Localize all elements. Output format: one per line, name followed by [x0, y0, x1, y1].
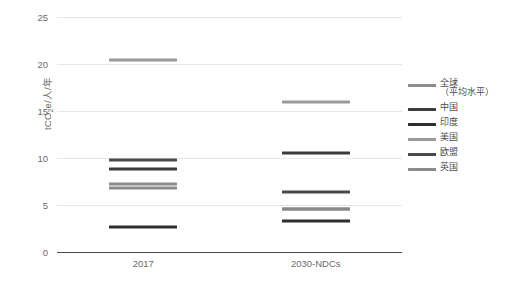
- bar-marker: [282, 152, 350, 155]
- y-tick-label-15: 15: [14, 106, 48, 117]
- legend-item[interactable]: 英国: [408, 163, 511, 172]
- legend-item-label: 欧盟: [440, 148, 458, 157]
- legend-item-label: 中国: [440, 103, 458, 112]
- bar-marker: [282, 190, 350, 193]
- y-tick-label-0: 0: [14, 247, 48, 258]
- bar-marker: [109, 168, 177, 171]
- y-axis-title-text: tCO2e/人/年: [42, 77, 53, 130]
- legend-swatch-icon: [408, 84, 436, 87]
- x-tick-label-2017: 2017: [133, 258, 154, 269]
- legend-item[interactable]: 印度: [408, 118, 511, 127]
- gridline-0: [57, 252, 402, 253]
- legend-item[interactable]: 中国: [408, 103, 511, 112]
- legend-swatch-icon: [408, 168, 436, 171]
- y-tick-label-5: 5: [14, 200, 48, 211]
- gridline-25: [57, 17, 402, 18]
- bar-marker: [109, 187, 177, 190]
- y-tick-label-20: 20: [14, 59, 48, 70]
- bar-marker: [109, 183, 177, 186]
- bar-marker: [109, 59, 177, 62]
- chart-container: tCO2e/人/年 0510152025 20172030-NDCs 全球 （平…: [0, 0, 513, 287]
- y-axis-title: tCO2e/人/年: [40, 58, 55, 148]
- gridline-20: [57, 64, 402, 65]
- bar-marker: [109, 225, 177, 228]
- legend-swatch-icon: [408, 123, 436, 126]
- legend-swatch-icon: [408, 138, 436, 141]
- legend-swatch-icon: [408, 153, 436, 156]
- legend-item-label: 英国: [440, 163, 458, 172]
- legend-item-label: 全球 （平均水平）: [440, 79, 494, 98]
- y-tick-label-25: 25: [14, 12, 48, 23]
- legend-item[interactable]: 欧盟: [408, 148, 511, 157]
- plot-area: [57, 17, 402, 252]
- chart-legend: 全球 （平均水平）中国印度美国欧盟英国: [408, 79, 511, 178]
- bar-marker: [109, 158, 177, 161]
- legend-item[interactable]: 全球 （平均水平）: [408, 79, 511, 98]
- legend-item-label: 美国: [440, 133, 458, 142]
- bar-marker: [282, 219, 350, 222]
- y-tick-label-10: 10: [14, 153, 48, 164]
- gridline-15: [57, 111, 402, 112]
- gridline-5: [57, 205, 402, 206]
- bar-marker: [282, 207, 350, 210]
- bar-marker: [282, 100, 350, 103]
- x-tick-label-2030-NDCs: 2030-NDCs: [291, 258, 341, 269]
- legend-item-label: 印度: [440, 118, 458, 127]
- legend-swatch-icon: [408, 108, 436, 111]
- legend-item[interactable]: 美国: [408, 133, 511, 142]
